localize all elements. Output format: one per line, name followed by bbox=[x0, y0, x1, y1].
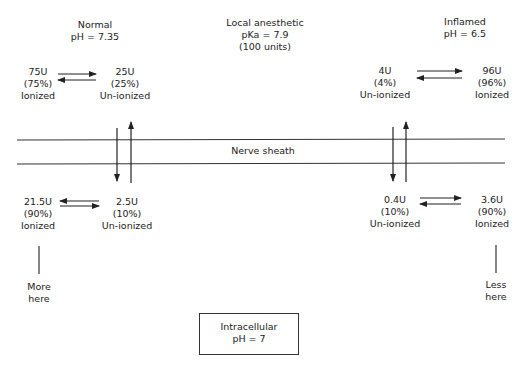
normal-ph-value: pH = 7.35 bbox=[40, 31, 150, 43]
amount: 96U bbox=[466, 65, 518, 77]
amount: 75U bbox=[8, 66, 68, 78]
membrane-outer-line bbox=[17, 139, 505, 140]
inflamed-top-ionized: 96U (96%) Ionized bbox=[466, 65, 518, 101]
state-label: Ionized bbox=[8, 90, 68, 102]
intracellular-ph-value: pH = 7 bbox=[200, 333, 298, 345]
state-label: Ionized bbox=[465, 218, 519, 230]
state-label: Un-ionized bbox=[352, 89, 418, 101]
percent: (10%) bbox=[365, 206, 425, 218]
intracellular-box: Intracellular pH = 7 bbox=[199, 313, 299, 355]
amount: 25U bbox=[94, 66, 156, 78]
normal-bottom-ionized: 21.5U (90%) Ionized bbox=[10, 196, 66, 232]
percent: (75%) bbox=[8, 78, 68, 90]
membrane-inner-line bbox=[17, 163, 505, 164]
more-here-note: More here bbox=[19, 281, 59, 305]
note-line: More bbox=[19, 281, 59, 293]
nerve-sheath-label: Nerve sheath bbox=[213, 145, 313, 157]
drug-pka-value: pKa = 7.9 bbox=[200, 29, 330, 41]
state-label: Ionized bbox=[10, 220, 66, 232]
drug-units-value: (100 units) bbox=[200, 41, 330, 53]
percent: (4%) bbox=[352, 77, 418, 89]
inflamed-top-unionized: 4U (4%) Un-ionized bbox=[352, 65, 418, 101]
inflamed-bottom-ionized: 3.6U (90%) Ionized bbox=[465, 194, 519, 230]
normal-top-unionized: 25U (25%) Un-ionized bbox=[94, 66, 156, 102]
state-label: Un-ionized bbox=[94, 90, 156, 102]
amount: 3.6U bbox=[465, 194, 519, 206]
inflamed-bottom-unionized: 0.4U (10%) Un-ionized bbox=[365, 194, 425, 230]
intracellular-title: Intracellular bbox=[200, 321, 298, 333]
amount: 0.4U bbox=[365, 194, 425, 206]
percent: (10%) bbox=[96, 208, 158, 220]
percent: (90%) bbox=[10, 208, 66, 220]
normal-title: Normal pH = 7.35 bbox=[40, 19, 150, 43]
state-label: Ionized bbox=[466, 89, 518, 101]
normal-title-label: Normal bbox=[40, 19, 150, 31]
percent: (96%) bbox=[466, 77, 518, 89]
amount: 2.5U bbox=[96, 196, 158, 208]
amount: 21.5U bbox=[10, 196, 66, 208]
normal-bottom-unionized: 2.5U (10%) Un-ionized bbox=[96, 196, 158, 232]
drug-title: Local anesthetic pKa = 7.9 (100 units) bbox=[200, 17, 330, 53]
inflamed-title: Inflamed pH = 6.5 bbox=[400, 16, 527, 40]
note-line: here bbox=[478, 291, 514, 303]
normal-top-ionized: 75U (75%) Ionized bbox=[8, 66, 68, 102]
inflamed-ph-value: pH = 6.5 bbox=[400, 28, 527, 40]
percent: (25%) bbox=[94, 78, 156, 90]
amount: 4U bbox=[352, 65, 418, 77]
percent: (90%) bbox=[465, 206, 519, 218]
state-label: Un-ionized bbox=[365, 218, 425, 230]
note-line: here bbox=[19, 293, 59, 305]
intracellular-label: Intracellular pH = 7 bbox=[200, 321, 298, 345]
note-line: Less bbox=[478, 279, 514, 291]
state-label: Un-ionized bbox=[96, 220, 158, 232]
inflamed-title-label: Inflamed bbox=[400, 16, 527, 28]
less-here-note: Less here bbox=[478, 279, 514, 303]
drug-title-label: Local anesthetic bbox=[200, 17, 330, 29]
